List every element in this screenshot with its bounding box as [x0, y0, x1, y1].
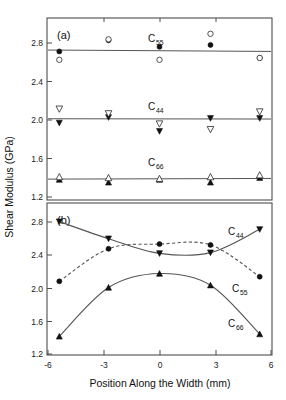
chart-svg: Shear Modulus (GPa) 2.8 2.4 2.0 1.6 1.2	[0, 0, 286, 400]
y-axis-title-text: Shear Modulus (GPa)	[3, 136, 15, 238]
data-point-c55-filled-2	[157, 44, 162, 49]
panel-b-annotation-c44: C 44	[228, 226, 244, 239]
panel-a-ylabel-3: 1.6	[31, 154, 43, 164]
x-axis-title-text: Position Along the Width (mm)	[89, 377, 230, 389]
panel-a-c44-base: C	[148, 101, 155, 112]
data-point-c44-open-4	[256, 109, 263, 115]
panel-b-frame	[47, 203, 272, 355]
data-point-c44-filled-4	[257, 116, 263, 122]
data-point-c44-open-2	[156, 121, 163, 127]
panel-b: 2.8 2.4 2.0 1.6 1.2 -6 -3 0 3 6 (b)	[31, 203, 273, 370]
panel-b-ylabel-0: 2.8	[31, 217, 43, 227]
panel-b-xlabel-0: -6	[44, 360, 52, 370]
panel-b-c44-base: C	[228, 226, 235, 237]
panel-a-ylabel-2: 2.0	[31, 115, 43, 125]
data-point-c66-open-1	[105, 174, 112, 180]
panel-a-annotation-c55: C 55	[148, 33, 164, 46]
panel-a-c66-base: C	[148, 157, 155, 168]
data-point-c66-filled-3	[207, 179, 213, 185]
panel-a-label: (a)	[57, 29, 70, 41]
data-point-c66-open-3	[207, 173, 214, 179]
panel-b-ylabel-3: 1.6	[31, 317, 43, 327]
panel-a-c44-sub: 44	[156, 107, 164, 114]
data-point-c44-filled-0	[56, 120, 62, 126]
panel-b-ylabel-4: 1.2	[31, 349, 43, 359]
panel-b-c44-sub: 44	[236, 232, 244, 239]
data-point-c55-open-0	[57, 57, 62, 62]
data-point-c44-4	[257, 227, 263, 233]
data-point-c66-3	[207, 282, 213, 288]
panel-b-c55-sub: 55	[240, 289, 248, 296]
data-point-c55-open-2	[157, 57, 162, 62]
data-point-c44-filled-3	[207, 116, 213, 122]
data-point-c44-filled-2	[157, 129, 163, 135]
panel-a-fit-lines	[48, 50, 271, 179]
data-point-c66-1	[106, 285, 112, 291]
panel-a: 2.8 2.4 2.0 1.6 1.2 (a) C 55 C	[31, 18, 272, 202]
panel-b-y-ticks: 2.8 2.4 2.0 1.6 1.2	[31, 217, 52, 359]
panel-a-annotation-c66: C 66	[148, 157, 164, 170]
fit-line-c55-fit	[48, 50, 271, 51]
data-point-c55-open-4	[257, 55, 262, 60]
panel-a-annotation-c44: C 44	[148, 101, 164, 114]
panel-a-y-ticks: 2.8 2.4 2.0 1.6 1.2	[31, 38, 52, 202]
data-point-c55-2	[157, 242, 162, 247]
panel-b-annotation-c66: C 66	[228, 318, 244, 331]
panel-b-xlabel-4: 6	[269, 360, 274, 370]
panel-b-x-ticks: -6 -3 0 3 6	[44, 350, 273, 370]
data-point-c55-filled-3	[208, 42, 213, 47]
data-point-c55-0	[57, 279, 62, 284]
data-point-c55-filled-0	[57, 49, 62, 54]
panel-b-xlabel-2: 0	[158, 360, 163, 370]
panel-a-c66-sub: 66	[156, 163, 164, 170]
panel-a-ylabel-1: 2.4	[31, 77, 43, 87]
panel-b-ylabel-1: 2.4	[31, 250, 43, 260]
panel-b-c66-base: C	[228, 318, 235, 329]
panel-b-ylabel-2: 2.0	[31, 284, 43, 294]
panel-a-ylabel-4: 1.2	[31, 192, 43, 202]
panel-b-c55-base: C	[232, 283, 239, 294]
data-point-c55-3	[208, 242, 213, 247]
data-point-c66-open-0	[56, 173, 63, 179]
data-point-c44-open-3	[207, 126, 214, 132]
data-point-c55-1	[106, 246, 111, 251]
data-point-c66-open-4	[256, 172, 263, 178]
data-point-c55-4	[257, 274, 262, 279]
panel-b-xlabel-3: 3	[214, 360, 219, 370]
data-point-c55-open-1	[106, 37, 111, 42]
data-point-c44-open-0	[56, 106, 63, 112]
panel-b-c66-sub: 66	[236, 324, 244, 331]
panel-a-ylabel-0: 2.8	[31, 38, 43, 48]
panel-a-c55-base: C	[148, 33, 155, 44]
data-point-c55-open-3	[208, 31, 213, 36]
y-axis-title: Shear Modulus (GPa)	[3, 136, 15, 238]
figure-container: Shear Modulus (GPa) 2.8 2.4 2.0 1.6 1.2	[0, 0, 286, 400]
panel-a-x-ticks	[104, 18, 216, 22]
panel-b-xlabel-1: -3	[100, 360, 108, 370]
panel-b-annotation-c55: C 55	[232, 283, 248, 296]
